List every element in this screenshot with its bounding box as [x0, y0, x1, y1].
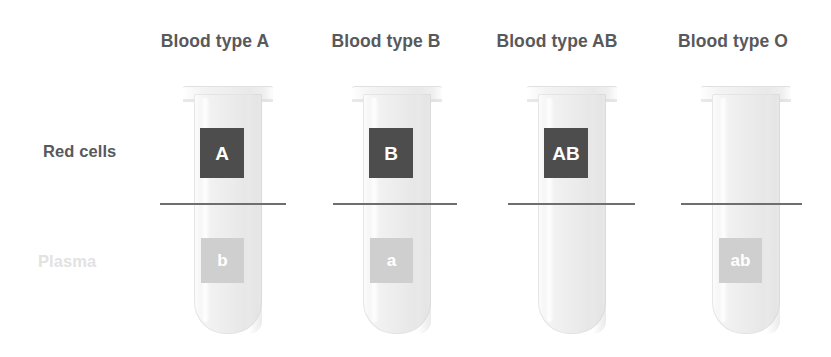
test-tube-blood-type-ab: AB: [538, 86, 606, 334]
plasma-separator-line-blood-type-b: [333, 203, 457, 205]
antibody-marker-blood-type-b: a: [370, 238, 413, 283]
plasma-separator-line-blood-type-o: [681, 203, 802, 205]
column-title-blood-type-ab: Blood type AB: [496, 31, 617, 52]
test-tube-blood-type-o: ab: [712, 86, 780, 334]
test-tube-blood-type-a: Ab: [194, 86, 262, 334]
row-label-plasma: Plasma: [38, 252, 96, 271]
column-title-blood-type-b: Blood type B: [331, 31, 440, 52]
blood-type-diagram: Red cells Plasma Blood type AAbBlood typ…: [0, 0, 831, 357]
antigen-marker-blood-type-a: A: [200, 128, 244, 178]
column-title-blood-type-o: Blood type O: [678, 31, 788, 52]
plasma-separator-line-blood-type-a: [160, 203, 286, 205]
antibody-marker-blood-type-o: ab: [719, 238, 762, 283]
row-label-red-cells: Red cells: [43, 142, 116, 161]
test-tube-body: [712, 94, 780, 334]
column-title-blood-type-a: Blood type A: [161, 31, 269, 52]
antigen-marker-blood-type-ab: AB: [544, 128, 588, 178]
antibody-marker-blood-type-a: b: [201, 238, 244, 283]
plasma-separator-line-blood-type-ab: [508, 203, 635, 205]
antigen-marker-blood-type-b: B: [369, 128, 413, 178]
test-tube-blood-type-b: Ba: [363, 86, 431, 334]
